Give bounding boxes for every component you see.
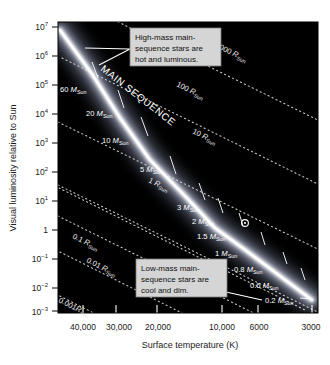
y-tick-exp-10: −3: [41, 306, 49, 312]
low-mass-line-0: Low-mass main-: [141, 264, 200, 273]
y-tick-mant-0: 10: [35, 22, 45, 32]
low-mass-line-1: sequence stars are: [141, 275, 210, 284]
y-tick-mant-4: 10: [35, 138, 45, 148]
high-mass-line-0: High-mass main-: [135, 33, 196, 42]
callout-high-mass: High-mass main- sequence stars are hot a…: [130, 28, 221, 66]
x-tick-2: 20,000: [145, 322, 171, 332]
x-tick-3: 10,000: [209, 322, 235, 332]
y-axis-title: Visual luminosity relative to Sun: [8, 105, 18, 232]
y-tick-mant-10: 10: [32, 307, 42, 317]
y-tick-mant-7: 1: [43, 225, 48, 235]
x-tick-1: 30,000: [106, 322, 132, 332]
high-mass-line-1: sequence stars are: [135, 44, 204, 53]
y-tick-mant-1: 10: [35, 51, 45, 61]
y-tick-mant-9: 10: [32, 283, 42, 293]
y-tick-mant-6: 10: [35, 196, 45, 206]
x-tick-4: 6000: [250, 322, 269, 332]
x-tick-5: 3000: [302, 322, 321, 332]
hr-diagram-figure: 107 106 105 104 103 102 101 1 10−1 10−2: [0, 0, 330, 365]
svg-text:1: 1: [43, 225, 48, 235]
y-tick-mant-2: 10: [35, 80, 45, 90]
high-mass-line-2: hot and luminous.: [135, 55, 198, 64]
y-tick-exp-9: −2: [41, 282, 49, 288]
callout-low-mass: Low-mass main- sequence stars are cool a…: [136, 259, 227, 297]
y-tick-mant-5: 10: [35, 167, 45, 177]
low-mass-line-2: cool and dim.: [141, 286, 189, 295]
x-axis-title: Surface temperature (K): [142, 340, 239, 350]
x-tick-0: 40,000: [70, 322, 96, 332]
y-tick-mant-3: 10: [35, 109, 45, 119]
y-tick-mant-8: 10: [32, 254, 42, 264]
y-tick-exp-8: −1: [41, 253, 49, 259]
